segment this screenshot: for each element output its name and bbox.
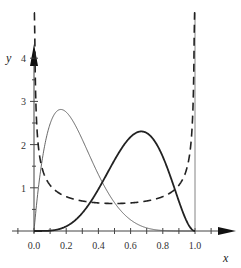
x-axis-arrow: [218, 227, 236, 235]
x-tick-label: 0.6: [124, 240, 137, 251]
series-line-dashed: [34, 13, 195, 204]
x-tick-label: 0.2: [60, 240, 73, 251]
axes: 0.00.20.40.60.81.01234: [12, 12, 236, 251]
x-axis-label: x: [222, 251, 229, 265]
y-tick-label: 1: [21, 183, 26, 194]
curves: [34, 13, 195, 231]
x-tick-label: 0.0: [28, 240, 41, 251]
y-tick-label: 4: [21, 53, 26, 64]
y-tick-label: 3: [21, 96, 26, 107]
y-tick-label: 2: [21, 140, 26, 151]
beta-density-chart: 0.00.20.40.60.81.01234 y x: [0, 0, 241, 268]
y-axis-label: y: [5, 51, 12, 65]
x-tick-label: 0.8: [157, 240, 170, 251]
y-axis-arrow: [30, 44, 38, 66]
x-tick-label: 1.0: [189, 240, 202, 251]
x-tick-label: 0.4: [92, 240, 105, 251]
series-line-thin-solid: [34, 109, 195, 231]
series-line-thick-solid: [34, 131, 195, 231]
